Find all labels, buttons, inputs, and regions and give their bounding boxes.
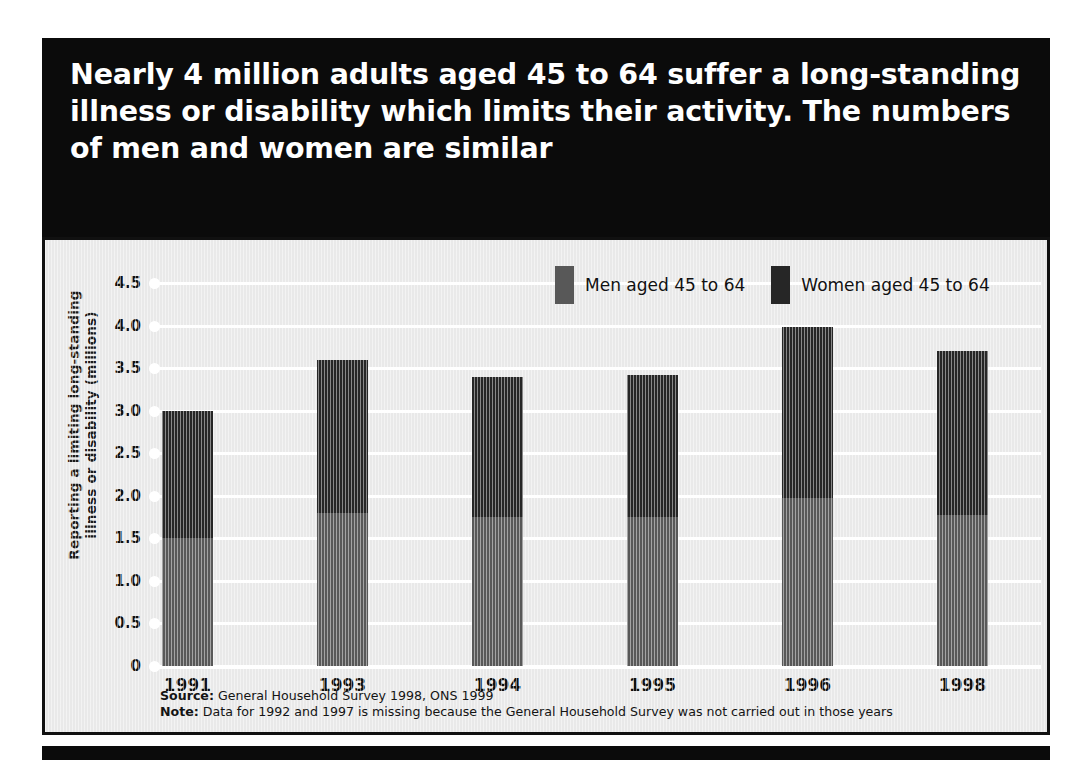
legend-label-men: Men aged 45 to 64 — [585, 275, 745, 295]
headline-block: Nearly 4 million adults aged 45 to 64 su… — [42, 38, 1050, 237]
footnote-note-label: Note: — [160, 704, 199, 719]
footnote-source: Source: General Household Survey 1998, O… — [160, 688, 893, 704]
bar-stack-1996 — [782, 327, 833, 666]
y-tick-dot — [149, 576, 160, 587]
gridline — [157, 410, 1041, 413]
legend-swatch-women-icon — [771, 266, 790, 304]
legend-swatch-men-icon — [555, 266, 574, 304]
y-tick-dot — [149, 661, 160, 672]
y-tick-label: 0.5 — [114, 616, 141, 631]
chart-legend: Men aged 45 to 64 Women aged 45 to 64 — [555, 266, 990, 304]
legend-item-women: Women aged 45 to 64 — [771, 266, 989, 304]
y-tick-dot — [149, 278, 160, 289]
bar-segment-men — [472, 517, 523, 666]
bar-stack-1993 — [317, 360, 368, 666]
poster-page: Nearly 4 million adults aged 45 to 64 su… — [0, 0, 1084, 760]
gridline — [157, 367, 1041, 370]
footnote-note: Note: Data for 1992 and 1997 is missing … — [160, 704, 893, 720]
bar-stack-1995 — [627, 375, 678, 666]
plot-area: 00.51.01.52.02.53.03.54.04.5 19911993199… — [157, 283, 1041, 666]
bar-segment-women — [162, 411, 213, 539]
y-tick-dot — [149, 491, 160, 502]
bar-stack-1991 — [162, 411, 213, 666]
y-tick-label: 1.0 — [114, 574, 141, 589]
y-tick-label: 1.5 — [114, 531, 141, 546]
footnote-note-text: Data for 1992 and 1997 is missing becaus… — [199, 704, 893, 719]
bar-segment-men — [782, 498, 833, 666]
gridline — [157, 665, 1041, 669]
gridline — [157, 537, 1041, 540]
legend-item-men: Men aged 45 to 64 — [555, 266, 745, 304]
gridline — [157, 452, 1041, 455]
y-tick-dot — [149, 406, 160, 417]
bar-segment-women — [317, 360, 368, 513]
bar-segment-women — [627, 375, 678, 517]
y-tick-label: 2.5 — [114, 446, 141, 461]
bar-segment-men — [162, 538, 213, 666]
y-axis-title-line-1: Reporting a limiting long-standing — [66, 245, 83, 605]
y-axis-title: Reporting a limiting long-standing illne… — [66, 245, 100, 605]
y-tick-dot — [149, 448, 160, 459]
y-tick-label: 3.5 — [114, 361, 141, 376]
y-tick-label: 4.0 — [114, 319, 141, 334]
y-tick-label: 3.0 — [114, 404, 141, 419]
y-tick-dot — [149, 363, 160, 374]
gridline — [157, 622, 1041, 625]
y-tick-label: 0 — [131, 659, 141, 674]
bar-segment-women — [472, 377, 523, 517]
y-tick-dot — [149, 533, 160, 544]
footnote-source-label: Source: — [160, 688, 214, 703]
bar-segment-men — [317, 513, 368, 666]
page-title: Nearly 4 million adults aged 45 to 64 su… — [70, 56, 1024, 167]
y-tick-label: 2.0 — [114, 489, 141, 504]
bar-segment-women — [782, 327, 833, 498]
bar-segment-men — [937, 515, 988, 666]
bottom-rule — [42, 746, 1050, 760]
footnotes: Source: General Household Survey 1998, O… — [160, 688, 893, 719]
y-tick-dot — [149, 321, 160, 332]
bar-segment-men — [627, 517, 678, 666]
chart-panel: Reporting a limiting long-standing illne… — [42, 237, 1050, 735]
bar-segment-women — [937, 351, 988, 514]
y-axis-title-line-2: illness or disability (millions) — [83, 245, 100, 605]
gridline — [157, 580, 1041, 583]
gridline — [157, 325, 1041, 328]
bar-stack-1994 — [472, 377, 523, 666]
y-tick-label: 4.5 — [114, 276, 141, 291]
footnote-source-text: General Household Survey 1998, ONS 1999 — [214, 688, 494, 703]
gridline — [157, 495, 1041, 498]
bar-stack-1998 — [937, 351, 988, 666]
legend-label-women: Women aged 45 to 64 — [801, 275, 989, 295]
y-tick-dot — [149, 618, 160, 629]
x-axis-label-1998: 1998 — [905, 675, 1020, 695]
